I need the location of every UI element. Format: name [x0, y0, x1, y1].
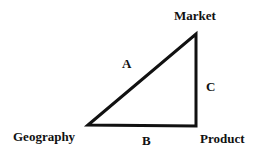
vertex-label-market: Market: [174, 9, 216, 22]
edge-label-c: C: [206, 80, 215, 93]
triangle-shape: [88, 34, 196, 126]
vertex-label-product: Product: [200, 132, 245, 145]
edge-label-b: B: [142, 134, 151, 147]
edge-label-a: A: [122, 57, 131, 70]
vertex-label-geography: Geography: [13, 130, 75, 143]
